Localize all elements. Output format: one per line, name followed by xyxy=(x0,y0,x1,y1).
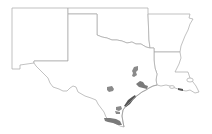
state-new-mexico[interactable] xyxy=(12,8,68,69)
state-arkansas[interactable] xyxy=(148,14,193,52)
region-map xyxy=(0,0,212,134)
state-louisiana[interactable] xyxy=(154,52,199,93)
lake-sw-louisiana xyxy=(170,86,175,89)
lake-pontchartrain xyxy=(187,78,193,82)
